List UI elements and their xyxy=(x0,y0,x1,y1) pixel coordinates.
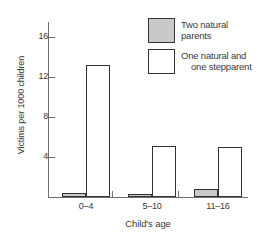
y-tick-label-8: 8 xyxy=(30,112,48,121)
y-tick-mark-16 xyxy=(48,37,55,38)
bar-chart: 16 12 8 4 Victims per 1000 children 0–4 … xyxy=(0,0,275,236)
legend-item-one-natural-one-stepparent: One natural and one stepparent xyxy=(148,49,275,74)
y-axis-line xyxy=(48,22,49,198)
x-axis-line xyxy=(48,197,248,198)
y-tick-label-4: 4 xyxy=(30,152,48,161)
legend-swatch-two-natural-parents xyxy=(148,18,175,43)
bar-one-natural-one-stepparent-11-16 xyxy=(218,147,242,197)
y-tick-mark-8 xyxy=(48,117,55,118)
legend-label-one-natural-one-stepparent: One natural and one stepparent xyxy=(181,49,252,72)
legend-swatch-one-natural-one-stepparent xyxy=(148,49,175,74)
y-tick-label-12: 12 xyxy=(30,72,48,81)
x-category-label-11-16: 11–16 xyxy=(188,201,248,211)
x-category-label-5-10: 5–10 xyxy=(122,201,182,211)
chart-legend: Two natural parents One natural and one … xyxy=(148,18,275,80)
y-axis-title: Victims per 1000 children xyxy=(16,40,26,170)
legend-item-two-natural-parents: Two natural parents xyxy=(148,18,275,43)
x-axis-title: Child's age xyxy=(48,219,248,229)
y-tick-mark-12 xyxy=(48,77,55,78)
y-tick-label-16: 16 xyxy=(30,32,48,41)
legend-label-two-natural-parents: Two natural parents xyxy=(181,18,228,41)
x-axis-separator-1 xyxy=(112,191,113,198)
x-category-label-0-4: 0–4 xyxy=(56,201,116,211)
y-tick-16: 16 xyxy=(0,37,48,38)
bar-two-natural-parents-11-16 xyxy=(194,189,218,197)
bar-one-natural-one-stepparent-5-10 xyxy=(152,146,176,197)
legend-label-line-2: parents xyxy=(181,30,228,41)
legend-label-line-1: Two natural xyxy=(181,19,228,30)
x-axis-separator-2 xyxy=(178,191,179,198)
y-tick-mark-4 xyxy=(48,157,55,158)
bar-two-natural-parents-0-4 xyxy=(62,193,86,197)
bar-one-natural-one-stepparent-0-4 xyxy=(86,65,110,197)
legend-label-line-2: one stepparent xyxy=(181,61,252,72)
legend-label-line-1: One natural and xyxy=(181,50,246,61)
bar-two-natural-parents-5-10 xyxy=(128,194,152,197)
